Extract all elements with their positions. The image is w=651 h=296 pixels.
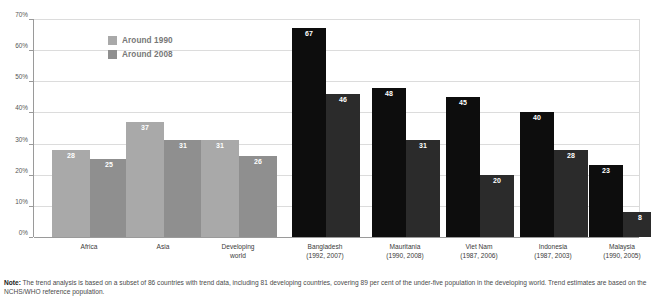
category-name: Bangladesh <box>280 243 370 252</box>
bar[interactable]: 25 <box>90 159 128 237</box>
bar-value-label: 67 <box>292 30 326 37</box>
bar-group: 4520 <box>446 19 514 237</box>
x-axis-category-label: Developingworld <box>193 243 283 260</box>
bar[interactable]: 26 <box>239 156 277 237</box>
bar[interactable]: 48 <box>372 88 406 237</box>
x-axis-category-label: Malaysia(1990, 2005) <box>577 243 651 260</box>
bar[interactable]: 37 <box>126 122 164 237</box>
bar[interactable]: 20 <box>480 175 514 237</box>
legend-swatch-icon <box>108 50 117 59</box>
bars: 4831 <box>372 19 440 237</box>
bar[interactable]: 40 <box>520 112 554 237</box>
gridline <box>34 237 639 238</box>
y-axis-tick-label: 30% <box>6 136 28 143</box>
x-axis-category-label: Bangladesh(1992, 2007) <box>280 243 370 260</box>
category-name-line2: world <box>193 252 283 261</box>
category-name: Developing <box>193 243 283 252</box>
footnote-prefix: Note: <box>4 279 21 286</box>
bar-value-label: 28 <box>52 152 90 159</box>
y-axis-tick-label: 20% <box>6 167 28 174</box>
y-axis-tick-label: 70% <box>6 11 28 18</box>
bar[interactable]: 45 <box>446 97 480 237</box>
bar-value-label: 25 <box>90 161 128 168</box>
bars: 238 <box>589 19 651 237</box>
category-years: (1990, 2005) <box>577 252 651 261</box>
legend-item[interactable]: Around 1990 <box>108 36 173 45</box>
y-axis-tick-mark <box>29 237 33 238</box>
bar-value-label: 23 <box>589 167 623 174</box>
bar[interactable]: 31 <box>406 140 440 237</box>
bar[interactable]: 31 <box>164 140 202 237</box>
bars: 4028 <box>520 19 588 237</box>
y-axis-tick-label: 10% <box>6 198 28 205</box>
bar[interactable]: 67 <box>292 28 326 237</box>
bar-value-label: 31 <box>164 142 202 149</box>
footnote-text: The trend analysis is based on a subset … <box>4 279 646 295</box>
bars: 3126 <box>201 19 277 237</box>
bars: 4520 <box>446 19 514 237</box>
legend-item[interactable]: Around 2008 <box>108 50 173 59</box>
bar[interactable]: 28 <box>52 150 90 237</box>
bar-group: 4028 <box>520 19 588 237</box>
bar-value-label: 31 <box>406 142 440 149</box>
bar[interactable]: 28 <box>554 150 588 237</box>
y-axis-tick-label: 60% <box>6 42 28 49</box>
bar-group: 238 <box>589 19 651 237</box>
bar-group: 6746 <box>292 19 360 237</box>
legend-swatch-icon <box>108 36 117 45</box>
bars: 6746 <box>292 19 360 237</box>
bar-group: 3126 <box>201 19 277 237</box>
bar[interactable]: 8 <box>623 212 651 237</box>
bar-value-label: 48 <box>372 90 406 97</box>
legend-label: Around 2008 <box>122 50 173 59</box>
bar-value-label: 20 <box>480 177 514 184</box>
bar[interactable]: 31 <box>201 140 239 237</box>
bar-value-label: 40 <box>520 114 554 121</box>
bar[interactable]: 46 <box>326 94 360 237</box>
bar-value-label: 46 <box>326 96 360 103</box>
bar-value-label: 28 <box>554 152 588 159</box>
y-axis-tick-label: 40% <box>6 104 28 111</box>
footnote: Note: The trend analysis is based on a s… <box>4 278 649 296</box>
bar-value-label: 26 <box>239 158 277 165</box>
bar-value-label: 37 <box>126 124 164 131</box>
bar-value-label: 31 <box>201 142 239 149</box>
y-axis-tick-label: 0% <box>6 229 28 236</box>
bar-value-label: 8 <box>623 214 651 221</box>
bar[interactable]: 23 <box>589 165 623 237</box>
chart-legend: Around 1990Around 2008 <box>108 36 173 64</box>
legend-label: Around 1990 <box>122 36 173 45</box>
y-axis-tick-label: 50% <box>6 73 28 80</box>
bar-value-label: 45 <box>446 99 480 106</box>
category-name: Malaysia <box>577 243 651 252</box>
chart-page: 0%10%20%30%40%50%60%70% 2825373131266746… <box>0 0 651 296</box>
bar-group: 4831 <box>372 19 440 237</box>
category-years: (1992, 2007) <box>280 252 370 261</box>
